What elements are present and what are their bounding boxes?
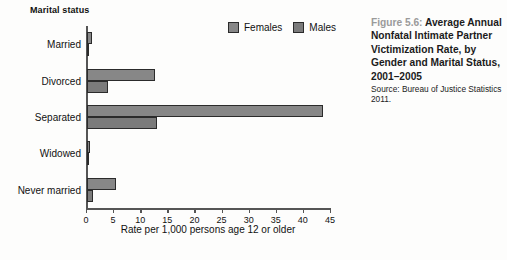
bar-males (87, 81, 108, 93)
x-axis-tick (330, 208, 331, 213)
bar-males (87, 190, 93, 202)
x-axis-line (86, 208, 330, 210)
x-axis-tick (167, 208, 168, 213)
category-label: Separated (35, 111, 81, 122)
figure-source: Source: Bureau of Justice Statistics 201… (371, 84, 503, 105)
bar-females (87, 178, 116, 190)
bar-females (87, 105, 323, 117)
bar-group: Married (87, 26, 331, 62)
bar-females (87, 32, 92, 44)
bar-females (87, 69, 155, 81)
x-axis-tick (249, 208, 250, 213)
x-axis-title: Rate per 1,000 persons age 12 or older (86, 224, 330, 235)
x-axis-tick (194, 208, 195, 213)
bar-females (87, 141, 90, 153)
x-axis-tick (86, 208, 87, 213)
x-axis-tick (222, 208, 223, 213)
category-label: Married (47, 39, 81, 50)
bar-males (87, 117, 157, 129)
bar-males (87, 153, 89, 165)
x-axis-tick (276, 208, 277, 213)
bar-group: Divorced (87, 62, 331, 98)
figure-caption: Figure 5.6: Average Annual Nonfatal Inti… (371, 16, 503, 105)
caption-heading: Figure 5.6: Average Annual Nonfatal Inti… (371, 16, 503, 83)
category-label: Divorced (42, 75, 81, 86)
bar-group: Widowed (87, 135, 331, 171)
bar-males (87, 44, 89, 56)
figure-page: Marital status Females Males 05101520253… (0, 0, 507, 260)
category-label: Widowed (40, 148, 81, 159)
y-axis-title: Marital status (30, 5, 89, 15)
bar-group: Separated (87, 99, 331, 135)
x-axis-tick (140, 208, 141, 213)
bar-chart: Marital status Females Males 05101520253… (0, 0, 362, 260)
x-axis-tick (113, 208, 114, 213)
plot-area: 051015202530354045MarriedDivorcedSeparat… (86, 26, 330, 208)
figure-number: Figure 5.6: (371, 17, 423, 28)
category-label: Never married (18, 184, 81, 195)
x-axis-tick (303, 208, 304, 213)
bar-group: Never married (87, 172, 331, 208)
